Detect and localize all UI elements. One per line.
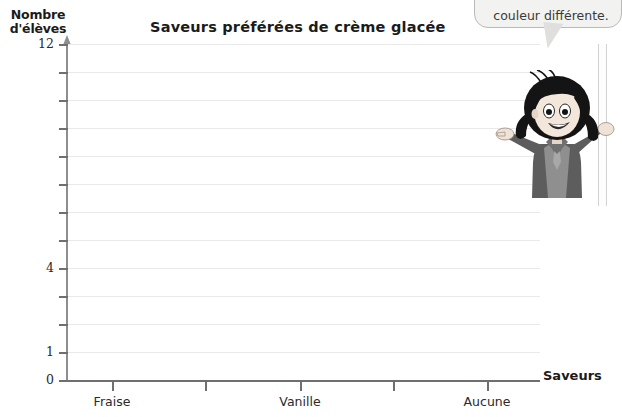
- gridline: [68, 352, 540, 353]
- gridline: [68, 268, 540, 269]
- y-axis-tick-label: 12: [38, 36, 54, 51]
- y-axis-tick: [59, 72, 68, 74]
- x-axis-tick: [205, 382, 207, 391]
- y-axis-tick: 0: [59, 380, 68, 382]
- speech-bubble-tail: [541, 22, 564, 50]
- plot-area: 12410 FraiseVanilleAucune: [66, 44, 540, 380]
- y-axis-tick: 12: [59, 44, 68, 46]
- gridline: [68, 324, 540, 325]
- x-axis-line: [66, 380, 540, 382]
- y-axis-tick: 4: [59, 268, 68, 270]
- gridline: [68, 100, 540, 101]
- y-axis-title-line-1: Nombre: [4, 8, 72, 22]
- y-axis-tick: [59, 184, 68, 186]
- gridline: [68, 156, 540, 157]
- gridline: [68, 212, 540, 213]
- x-axis-tick: [300, 382, 302, 391]
- x-axis-tick: [112, 382, 114, 391]
- y-axis-tick-label: 1: [46, 344, 54, 359]
- x-axis-tick: [487, 382, 489, 391]
- gridline: [68, 72, 540, 73]
- y-axis-tick: [59, 324, 68, 326]
- x-axis-tick-label: Aucune: [464, 394, 511, 409]
- y-axis-tick: [59, 156, 68, 158]
- cartoon-girl-pointing-illustration: [492, 70, 622, 205]
- x-axis-title: Saveurs: [543, 368, 602, 383]
- gridline: [68, 240, 540, 241]
- chart-title: Saveurs préférées de crème glacée: [150, 19, 446, 35]
- y-axis-title-line-2: d'élèves: [4, 22, 72, 36]
- gridline: [68, 296, 540, 297]
- y-axis-tick-label: 4: [46, 260, 54, 275]
- worksheet-canvas: Nombre d'élèves Saveurs préférées de crè…: [0, 0, 622, 417]
- y-axis-tick: [59, 100, 68, 102]
- x-axis-tick-label: Vanille: [279, 394, 320, 409]
- y-axis-tick: 1: [59, 352, 68, 354]
- y-axis-tick: [59, 128, 68, 130]
- x-axis-tick-label: Fraise: [94, 394, 131, 409]
- y-axis-tick: [59, 296, 68, 298]
- x-axis-tick: [393, 382, 395, 391]
- gridline: [68, 44, 540, 45]
- speech-bubble-line-2: couleur différente.: [485, 8, 617, 23]
- y-axis-tick: [59, 212, 68, 214]
- y-axis-tick: [59, 240, 68, 242]
- y-axis-tick-label: 0: [46, 372, 54, 387]
- gridline: [68, 184, 540, 185]
- gridline: [68, 128, 540, 129]
- y-axis-title: Nombre d'élèves: [4, 8, 72, 36]
